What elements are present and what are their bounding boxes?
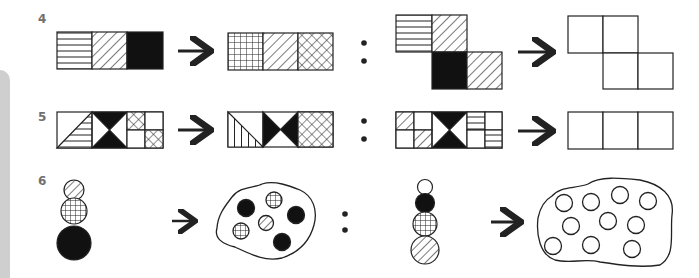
row6-result-blob <box>216 183 315 259</box>
colon-separator <box>342 211 348 233</box>
row6-question-stack <box>411 180 439 265</box>
row6-answer-blob <box>538 178 673 266</box>
row5-answer <box>568 112 673 149</box>
row4-question <box>396 15 502 89</box>
row6-source-stack <box>57 180 91 260</box>
colon-separator <box>361 40 367 64</box>
row4-answer <box>568 16 673 89</box>
puzzle-canvas <box>0 0 699 278</box>
row5-result <box>228 112 333 147</box>
row5-question <box>396 112 502 148</box>
row5-source <box>57 112 163 148</box>
row4-source <box>57 32 163 69</box>
colon-separator <box>361 118 367 142</box>
row4-result <box>228 33 333 70</box>
